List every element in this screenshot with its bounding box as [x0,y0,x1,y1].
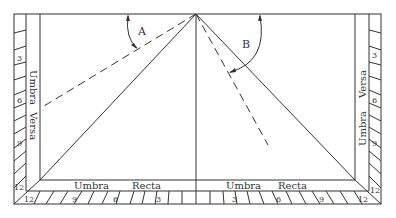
right-scale-9: 9 [372,139,377,148]
right-band-label-versa: Versa [357,70,368,99]
left-band-label-umbra: Umbra [28,70,39,105]
right-band-label-umbra: Umbra [357,111,368,146]
bottom-left-label-umbra: Umbra [74,180,109,191]
right-scale-6: 6 [372,96,377,105]
bottom-left-label-recta: Recta [132,180,161,191]
right-diagonal [196,14,355,180]
shadow-square-diagram: A B Umbra Versa Versa Umbra Umbra Recta … [0,0,396,218]
arrow-a-bottom-icon [131,43,137,49]
bottom-right-label-recta: Recta [278,180,307,191]
right-scale-3: 3 [372,51,377,60]
left-band-label-versa: Versa [28,111,39,140]
bottom-left-scale-6: 6 [113,195,118,204]
bottom-right-label-umbra: Umbra [226,180,261,191]
left-scale-12: 12 [14,183,24,192]
angle-label-b: B [242,38,250,51]
arrow-b-top-icon [258,14,262,21]
left-scale-9: 9 [17,139,22,148]
arrow-a-top-icon [126,14,130,21]
bottom-right-scale-3: 3 [232,195,237,204]
left-diagonal [40,14,196,180]
bottom-right-scale-9: 9 [319,195,324,204]
bottom-right-scale-6: 6 [276,195,281,204]
bottom-left-scale-12: 12 [24,195,34,204]
arrow-b-bottom-icon [229,68,236,73]
bottom-left-scale-9: 9 [72,195,77,204]
bottom-left-scale-3: 3 [156,195,161,204]
angle-label-a: A [137,25,147,38]
right-scale-12: 12 [370,186,380,195]
right-sight-line [196,14,268,145]
bottom-right-scale-12: 12 [358,195,368,204]
left-scale-3: 3 [17,54,22,63]
left-scale-6: 6 [17,96,22,105]
left-sight-line [44,14,196,106]
outer-frame [14,14,381,204]
